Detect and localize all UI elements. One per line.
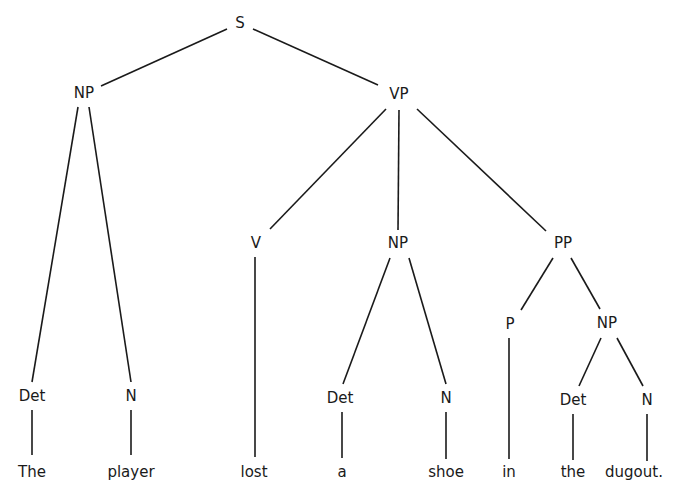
node-n2: N	[440, 391, 451, 406]
edge-vp-pp	[417, 109, 546, 231]
edge-pp-p	[521, 258, 553, 310]
node-np2: NP	[388, 236, 408, 251]
edge-np3-n3	[617, 338, 643, 386]
node-det2: Det	[327, 391, 354, 406]
terminal-word: lost	[240, 465, 267, 480]
node-det3: Det	[560, 393, 587, 408]
edge-vp-v	[270, 109, 386, 229]
node-pp: PP	[554, 236, 572, 251]
terminal-word: player	[107, 465, 154, 480]
node-v: V	[251, 236, 261, 251]
edge-s-np1	[101, 29, 227, 86]
node-s: S	[235, 16, 245, 31]
terminal-word: in	[502, 465, 516, 480]
node-n1: N	[125, 389, 136, 404]
edge-np2-n2	[409, 258, 446, 384]
parse-tree-diagram: SNPVPDetNVNPPPDetNPNPDetNTheplayerlostas…	[0, 0, 684, 499]
node-np3: NP	[597, 316, 617, 331]
edge-np3-det3	[579, 338, 601, 386]
edge-vp-np2	[398, 110, 399, 230]
terminal-word: dugout.	[605, 465, 663, 480]
terminal-word: shoe	[428, 465, 464, 480]
terminal-word: a	[337, 465, 346, 480]
terminal-word: The	[18, 465, 46, 480]
node-p: P	[505, 317, 514, 332]
node-n3: N	[641, 393, 652, 408]
node-vp: VP	[389, 87, 408, 102]
edge-np1-det1	[32, 107, 78, 382]
edge-s-vp	[253, 29, 378, 85]
edge-np2-det2	[343, 258, 390, 384]
node-det1: Det	[19, 389, 46, 404]
terminal-word: the	[561, 465, 586, 480]
node-np1: NP	[74, 86, 94, 101]
edge-pp-np3	[571, 258, 600, 309]
edge-np1-n1	[89, 107, 131, 382]
tree-edges	[0, 0, 684, 499]
